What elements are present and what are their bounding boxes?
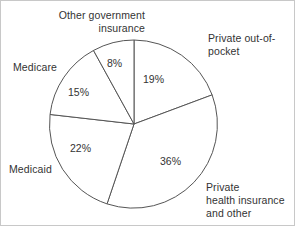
pie-label-medicare: Medicare (13, 61, 57, 74)
pie-label-private-health-insurance-and-other: Private health insurance and other (206, 181, 295, 220)
pie-chart-figure: Other government insurance Private out-o… (0, 0, 295, 226)
pie-label-private-out-of-pocket: Private out-of- pocket (208, 32, 294, 58)
pie-value-private-out-of-pocket: 19% (143, 73, 164, 85)
pie-value-medicaid: 22% (70, 142, 91, 154)
pie-value-private-health-insurance-and-other: 36% (160, 155, 181, 167)
pie-label-other-government-insurance: Other government insurance (19, 9, 145, 35)
pie-value-other-government-insurance: 8% (107, 57, 122, 69)
pie-label-medicaid: Medicaid (9, 163, 52, 176)
pie-value-medicare: 15% (68, 86, 89, 98)
